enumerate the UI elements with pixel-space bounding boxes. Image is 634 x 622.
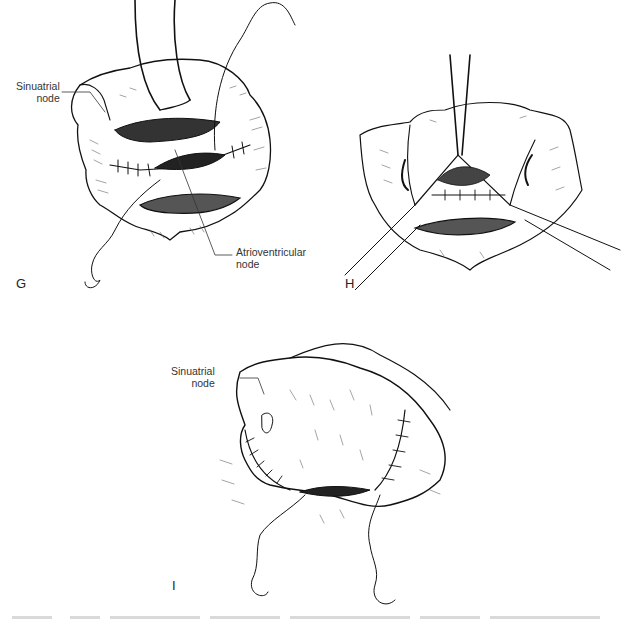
- panel-letter-g: G: [16, 276, 26, 291]
- label-sinuatrial-node-i: Sinuatrial node: [171, 365, 215, 389]
- panel-i: Sinuatrial node I: [140, 310, 480, 610]
- cropped-caption: [0, 614, 634, 622]
- heart-illustration-i: [140, 310, 480, 610]
- label-line: node: [16, 92, 60, 104]
- label-line: Atrioventricular: [236, 246, 306, 258]
- label-sinuatrial-node-g: Sinuatrial node: [16, 80, 60, 104]
- panel-letter-h: H: [345, 276, 354, 291]
- label-line: Sinuatrial: [16, 80, 60, 92]
- label-line: node: [171, 377, 215, 389]
- label-line: node: [236, 258, 306, 270]
- panel-letter-i: I: [172, 578, 176, 593]
- label-line: Sinuatrial: [171, 365, 215, 377]
- panel-g: Sinuatrial node Atrioventricular node G: [0, 0, 320, 290]
- panel-h: H: [320, 0, 634, 290]
- heart-illustration-h: [320, 0, 634, 290]
- label-atrioventricular-node-g: Atrioventricular node: [236, 246, 306, 270]
